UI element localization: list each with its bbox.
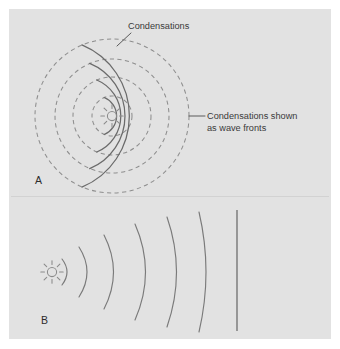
figure-root: Condensations Condensations shown as wav… <box>0 0 340 349</box>
condensations-leader-line <box>117 33 131 46</box>
source-ray-a-sw <box>104 121 107 124</box>
source-ring-b <box>47 267 56 276</box>
source-ray-b-nw <box>44 264 47 267</box>
wave-circle-dashed-3 <box>55 59 169 173</box>
sound-source-burst-a <box>101 105 123 127</box>
wave-front-b-3 <box>104 235 114 309</box>
wave-front-b-4 <box>135 224 146 320</box>
panel-a-group: Condensations Condensations shown as wav… <box>35 21 297 193</box>
source-ray-b-sw <box>44 277 47 280</box>
source-ray-a-ne <box>117 108 120 111</box>
condensations-label: Condensations <box>128 21 190 31</box>
wave-circle-dashed-4 <box>35 39 189 193</box>
wave-arc-solid-1 <box>104 98 116 135</box>
sound-source-burst-b <box>41 261 63 283</box>
source-ring-a <box>107 111 116 120</box>
source-ray-b-se <box>57 277 60 280</box>
wave-front-b-6 <box>199 212 206 332</box>
wave-circle-dashed-2 <box>73 77 151 155</box>
panel-b-group: B <box>41 210 237 332</box>
wave-front-b-2 <box>79 247 87 297</box>
wave-diagram-svg: Condensations Condensations shown as wav… <box>0 0 340 349</box>
wave-fronts-label-line2: as wave fronts <box>207 123 267 133</box>
panel-b-wave-fronts <box>62 212 206 332</box>
source-ray-b-ne <box>57 264 60 267</box>
source-ray-a-nw <box>104 108 107 111</box>
panel-letter-a: A <box>35 174 42 186</box>
wave-front-b-5 <box>167 217 177 327</box>
wave-circle-dashed-1 <box>92 96 132 136</box>
source-ray-a-se <box>117 121 120 124</box>
panel-a-dashed-circles <box>35 39 189 193</box>
panel-letter-b: B <box>41 314 48 326</box>
wave-fronts-label-line1: Condensations shown <box>207 111 297 121</box>
